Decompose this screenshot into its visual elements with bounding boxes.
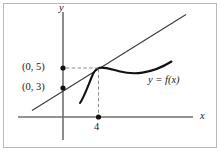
figure-frame: (0, 5) (0, 3) y = f(x) 4 x y	[0, 0, 220, 151]
point-marker-0-5	[60, 65, 65, 70]
label-curve-y-intercept: (0, 3)	[22, 82, 45, 93]
label-axis-x: x	[200, 111, 205, 122]
point-marker-0-3	[60, 85, 65, 90]
label-axis-y: y	[59, 3, 64, 14]
point-marker-x-4	[96, 114, 101, 119]
label-tangent-y-intercept: (0, 5)	[22, 62, 45, 73]
label-function-equation: y = f(x)	[148, 75, 180, 86]
figure-border	[4, 4, 217, 148]
label-x-tick-4: 4	[94, 122, 99, 133]
function-graph-figure	[0, 0, 220, 151]
